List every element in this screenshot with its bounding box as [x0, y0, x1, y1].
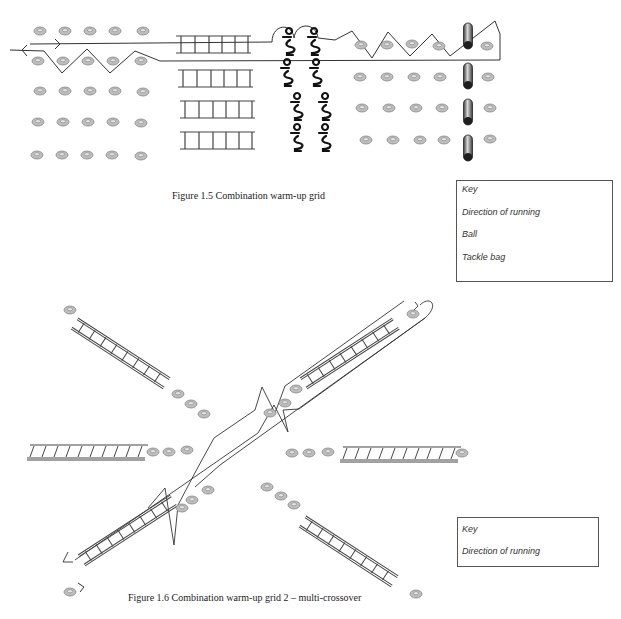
ball-grid-left [31, 27, 149, 160]
running-path-fig2 [63, 301, 433, 562]
key2-title: Key [462, 524, 478, 534]
running-path-fig1 [10, 21, 500, 73]
key2-direction-label: Direction of running [462, 546, 540, 556]
figure-1-6-caption: Figure 1.6 Combination warm-up grid 2 – … [128, 592, 361, 603]
figure-1-5-caption: Figure 1.5 Combination warm-up grid [172, 190, 325, 201]
key1-tackle-bag-label: Tackle bag [462, 252, 505, 262]
key1-direction-label: Direction of running [462, 207, 540, 217]
ball-grid-right [354, 40, 496, 144]
key1-ball-label: Ball [462, 229, 477, 239]
key-box-fig1 [456, 180, 613, 282]
ladders-fig1 [176, 36, 255, 149]
tackle-bags [464, 23, 473, 161]
key1-title: Key [462, 184, 478, 194]
key-box-fig2 [457, 517, 599, 567]
players-fig1 [281, 28, 330, 151]
